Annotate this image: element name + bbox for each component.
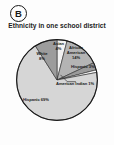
figure-panel: B Ethnicity in one school district (0, 0, 114, 145)
figure-label-letter: B (15, 9, 22, 19)
pie-chart: White 8% Asian 4% African American 14% H… (14, 37, 100, 123)
slice-label-african-american: African American 14% (66, 46, 86, 60)
slice-label-hispanic-large: Hispanic 69% (23, 98, 57, 103)
slice-label-white: White 8% (34, 52, 50, 62)
slice-label-hispanic-small: Hispanic 3% (71, 65, 93, 70)
slice-label-american-indian: American Indian 1% (56, 82, 102, 87)
slice-label-asian: Asian 4% (51, 42, 66, 52)
figure-label-badge: B (10, 5, 27, 22)
chart-title: Ethnicity in one school district (0, 22, 114, 29)
